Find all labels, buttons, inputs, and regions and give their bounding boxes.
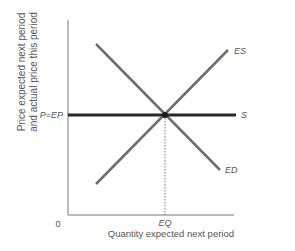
expected-supply-curve [96, 50, 228, 184]
es-curve-label: ES [234, 46, 246, 56]
x-axis-label: Quantity expected next period [108, 228, 234, 239]
y-axis-label-line2: and actual price this period [28, 12, 39, 132]
y-axis-label-line1: Price expected next period [16, 13, 27, 131]
price-tick-label: P=EP [40, 110, 63, 120]
origin-label: 0 [55, 219, 60, 229]
expected-demand-curve [96, 44, 220, 170]
equilibrium-point [162, 112, 168, 118]
quantity-tick-label: EQ [158, 218, 171, 228]
ed-curve-label: ED [225, 165, 238, 175]
economics-diagram: Price expected next period and actual pr… [0, 0, 295, 251]
s-line-label: S [241, 110, 247, 120]
